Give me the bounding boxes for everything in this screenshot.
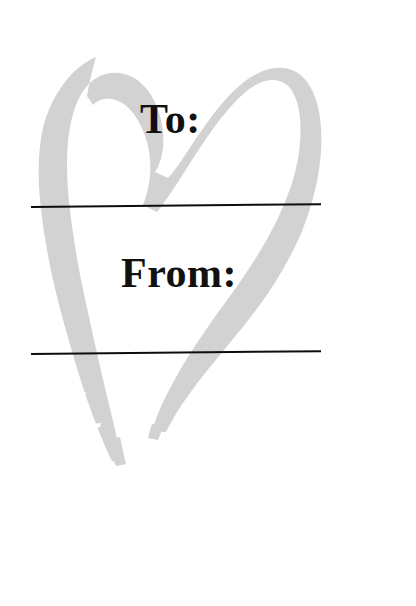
brush-stroke-heart-artwork bbox=[0, 0, 416, 606]
gift-tag-page: To: From: bbox=[0, 0, 416, 606]
heart-brush-right-tail bbox=[148, 424, 164, 440]
from-field-label: From: bbox=[121, 252, 237, 294]
heart-brush-texture-fleck-2 bbox=[92, 423, 101, 428]
from-write-line[interactable] bbox=[31, 350, 321, 355]
heart-brush-texture-fleck-3 bbox=[132, 444, 140, 450]
heart-brush-left-tail bbox=[108, 437, 126, 466]
to-write-line[interactable] bbox=[31, 203, 321, 208]
heart-brush-texture-fleck-1 bbox=[76, 392, 86, 398]
to-field-label: To: bbox=[140, 98, 201, 140]
